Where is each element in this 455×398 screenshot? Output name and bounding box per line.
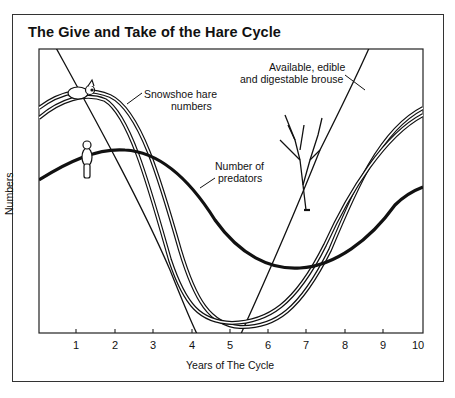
- bird-icon: [82, 141, 92, 178]
- predator-label-2: predators: [218, 172, 262, 184]
- hare-leader: [127, 93, 142, 104]
- x-tick-3: 3: [150, 339, 156, 351]
- y-axis-label: Numbers: [3, 172, 15, 215]
- x-tick-8: 8: [342, 339, 348, 351]
- x-tick-10: 10: [412, 339, 424, 351]
- hare-label-2: numbers: [171, 100, 212, 112]
- x-tick-5: 5: [227, 339, 233, 351]
- hare-line-outer: [39, 91, 423, 327]
- brouse-label-2: and digestable brouse: [240, 73, 343, 85]
- brouse-label-1: Available, edible: [269, 61, 345, 73]
- x-tick-1: 1: [73, 339, 79, 351]
- x-tick-2: 2: [112, 339, 118, 351]
- x-tick-4: 4: [189, 339, 195, 351]
- hare-label-1: Snowshoe hare: [144, 88, 217, 100]
- x-tick-7: 7: [303, 339, 309, 351]
- predator-label-1: Number of: [215, 160, 264, 172]
- predator-leader: [200, 178, 215, 188]
- x-axis-label: Years of The Cycle: [186, 359, 274, 371]
- hare-line-inner: [39, 97, 423, 323]
- x-tick-9: 9: [380, 339, 386, 351]
- x-tick-6: 6: [265, 339, 271, 351]
